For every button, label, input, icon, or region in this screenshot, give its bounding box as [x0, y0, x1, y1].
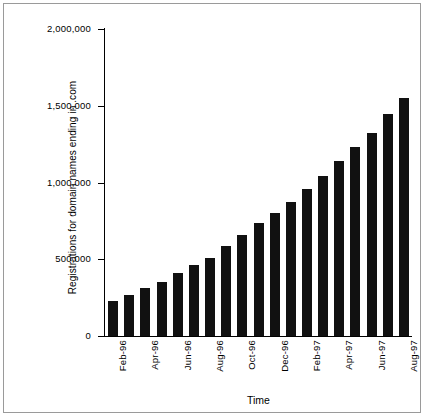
x-axis-title: Time — [105, 394, 412, 406]
x-axis-tick-label: Dec-96 — [279, 340, 290, 372]
bar — [124, 295, 134, 336]
y-axis-tick-label: 1,500,000 — [47, 100, 91, 111]
bar — [286, 202, 296, 336]
y-axis-tick — [98, 29, 104, 30]
x-axis-tick-labels: Feb-96Apr-96Jun-96Aug-96Oct-96Dec-96Feb-… — [105, 338, 412, 396]
x-axis-tick-label: Apr-97 — [343, 340, 354, 370]
bar — [237, 235, 247, 336]
x-axis-tick-label: Feb-96 — [117, 340, 128, 371]
bar — [173, 273, 183, 336]
bar — [334, 161, 344, 336]
x-axis-tick-label: Jun-97 — [376, 340, 387, 370]
bar — [157, 282, 167, 336]
bar — [302, 189, 312, 336]
x-axis-tick-label: Aug-96 — [214, 340, 225, 372]
bar — [254, 223, 264, 336]
x-axis-tick-label: Apr-96 — [149, 340, 160, 370]
bar — [270, 213, 280, 336]
y-axis-tick-labels: 2,000,0001,500,0001,000,000500,0000 — [4, 4, 95, 418]
x-axis-tick-label: Jun-96 — [182, 340, 193, 370]
bar — [350, 147, 360, 336]
y-axis-tick — [98, 259, 104, 260]
bar — [383, 114, 393, 336]
bar — [140, 288, 150, 336]
bar — [399, 98, 409, 336]
x-axis-tick-label: Feb-97 — [311, 340, 322, 371]
bar — [205, 258, 215, 336]
bar-series — [105, 29, 412, 336]
bar — [367, 133, 377, 336]
x-axis-tick-label: Oct-96 — [246, 340, 257, 370]
y-axis-tick — [98, 183, 104, 184]
y-axis-tick-label: 0 — [86, 330, 91, 341]
bar — [221, 246, 231, 336]
chart-frame: Registrations for domain names ending in… — [3, 3, 421, 413]
bar — [318, 176, 328, 336]
bar — [108, 301, 118, 336]
y-axis-tick-label: 1,000,000 — [47, 177, 91, 188]
x-axis-line — [104, 336, 412, 337]
x-axis-tick-label: Aug-97 — [408, 340, 419, 372]
bar — [189, 265, 199, 336]
y-axis-tick-label: 2,000,000 — [47, 23, 91, 34]
y-axis-tick — [98, 106, 104, 107]
y-axis-tick — [98, 336, 104, 337]
y-axis-tick-label: 500,000 — [55, 253, 91, 264]
